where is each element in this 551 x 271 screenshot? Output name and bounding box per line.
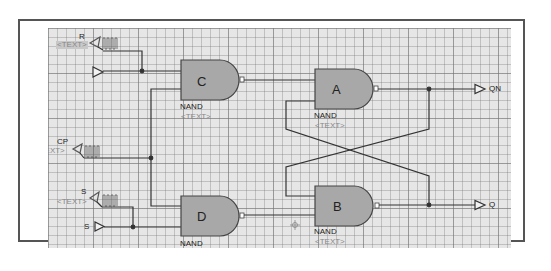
gate-b-name: B [333,200,342,213]
gate-c-type: NAND [180,103,203,111]
output-label-q: Q [489,201,495,209]
gate-d-name: D [197,210,206,223]
output-port-icon [475,201,485,210]
nand-gate-c [181,60,239,100]
input-port-label-s: S [84,223,89,231]
gate-a-name: A [332,83,341,96]
input-port-icon [93,67,103,77]
input-text-placeholder-s[interactable]: <TEXT> [57,198,87,206]
junction-dot [140,69,144,73]
gate-a-type: NAND [314,112,337,120]
input-label-cp: CP [57,138,68,146]
gate-b-type: NAND [314,228,337,236]
output-label-qn: QN [489,85,501,93]
input-port-icon [95,222,104,231]
nand-gate-a [315,69,373,109]
move-crosshair-icon [290,220,300,230]
gate-a-text-placeholder[interactable]: <TEXT> [315,122,345,130]
clock-source-cp-icon [73,144,99,158]
gate-c-text-placeholder[interactable]: <TEXT> [181,113,211,121]
nand-gate-b [315,186,373,226]
input-text-placeholder-r[interactable]: <TEXT> [56,41,88,49]
input-label-s: S [81,188,86,196]
junction-dot [131,225,135,229]
clock-source-s-icon [90,192,117,207]
gate-d-type: NAND [180,240,203,248]
nand-gate-d [181,196,239,236]
clock-source-r-icon [90,37,117,50]
output-port-icon [475,85,485,94]
gate-b-text-placeholder[interactable]: <TEXT> [315,238,345,246]
gate-c-name: C [197,75,206,88]
